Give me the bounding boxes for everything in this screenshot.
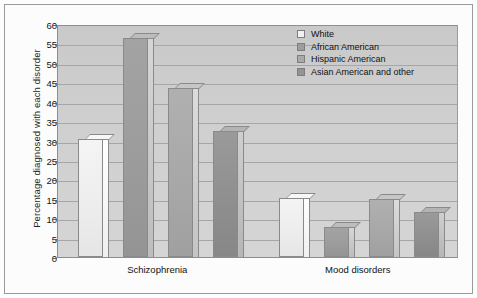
bar-side-face — [394, 199, 400, 257]
gridline — [58, 162, 457, 163]
bar — [279, 198, 304, 257]
legend-label: Asian American and other — [311, 67, 414, 77]
gridline — [58, 104, 457, 105]
bar-front-face — [168, 88, 193, 257]
bar — [414, 212, 439, 257]
legend-item: African American — [297, 41, 414, 54]
bar-side-face — [193, 88, 199, 257]
gridline — [58, 84, 457, 85]
legend-swatch-icon — [297, 55, 305, 63]
y-axis: 051015202530354045505560 — [25, 25, 57, 258]
legend-item: Hispanic American — [297, 53, 414, 66]
gridline — [58, 123, 457, 124]
bar — [213, 131, 238, 257]
bar-side-face — [103, 139, 109, 257]
legend-label: Hispanic American — [311, 54, 386, 64]
bar — [123, 38, 148, 257]
bar-side-face — [148, 38, 154, 257]
bar — [369, 199, 394, 257]
chart-figure: Percentage diagnosed with each disorder … — [0, 0, 477, 298]
bar — [78, 139, 103, 257]
legend-swatch-icon — [297, 68, 305, 76]
bar-side-face — [349, 227, 355, 257]
legend-item: White — [297, 28, 414, 41]
legend-item: Asian American and other — [297, 66, 414, 79]
bar-front-face — [414, 212, 439, 257]
legend: WhiteAfrican AmericanHispanic AmericanAs… — [297, 28, 414, 78]
x-axis-label: Schizophrenia — [127, 264, 187, 275]
bar-side-face — [238, 131, 244, 257]
bar-side-face — [439, 212, 445, 257]
legend-label: African American — [311, 42, 379, 52]
bar-front-face — [279, 198, 304, 257]
bar-front-face — [213, 131, 238, 257]
y-tick-mark — [52, 258, 57, 259]
legend-label: White — [311, 29, 334, 39]
gridline — [58, 143, 457, 144]
bar-front-face — [78, 139, 103, 257]
bar-front-face — [123, 38, 148, 257]
bar — [168, 88, 193, 257]
bar-front-face — [324, 227, 349, 257]
legend-swatch-icon — [297, 30, 305, 38]
legend-swatch-icon — [297, 43, 305, 51]
bar — [324, 227, 349, 257]
bar-front-face — [369, 199, 394, 257]
bar-side-face — [304, 198, 310, 257]
x-axis-label: Mood disorders — [325, 264, 390, 275]
gridline — [58, 181, 457, 182]
